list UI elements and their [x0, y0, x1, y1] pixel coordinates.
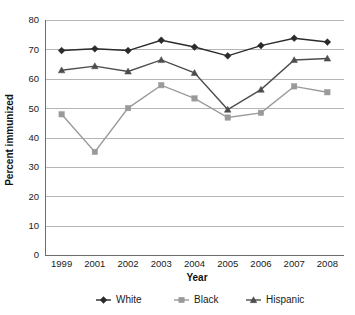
x-tick-label: 2008 [317, 258, 338, 269]
legend-label: Hispanic [266, 294, 304, 305]
legend-label: Black [194, 294, 219, 305]
series-white [58, 35, 331, 59]
y-tick-label: 80 [28, 14, 39, 25]
y-tick-label: 60 [28, 73, 39, 84]
marker-square [258, 110, 263, 115]
chart-canvas: 01020304050607080 1999200120022003200420… [0, 0, 355, 315]
marker-square [179, 297, 184, 302]
data-series [58, 35, 331, 155]
marker-diamond [58, 47, 65, 54]
x-tick-label: 2001 [84, 258, 105, 269]
legend-item-black[interactable]: Black [174, 294, 219, 305]
y-tick-label: 50 [28, 103, 39, 114]
marker-square [125, 105, 130, 110]
legend-item-white[interactable]: White [96, 294, 142, 305]
marker-diamond [158, 37, 165, 44]
marker-diamond [91, 45, 98, 52]
series-hispanic [58, 55, 330, 112]
series-line [62, 58, 328, 109]
marker-diamond [100, 297, 107, 304]
marker-square [59, 112, 64, 117]
marker-square [225, 115, 230, 120]
marker-diamond [324, 39, 331, 46]
x-tick-label: 2006 [250, 258, 271, 269]
y-axis-title: Percent immunized [4, 94, 15, 186]
y-tick-label: 40 [28, 132, 39, 143]
marker-triangle [158, 57, 165, 63]
y-tick-label: 70 [28, 44, 39, 55]
legend-label: White [116, 294, 142, 305]
marker-diamond [125, 47, 132, 54]
legend-item-hispanic[interactable]: Hispanic [246, 294, 304, 305]
marker-square [291, 84, 296, 89]
y-tick-label: 30 [28, 161, 39, 172]
x-tick-label: 2003 [151, 258, 172, 269]
chart-legend: WhiteBlackHispanic [96, 294, 304, 305]
series-black [59, 83, 330, 155]
x-axis-title: Year [186, 272, 207, 283]
series-line [62, 85, 328, 152]
x-tick-label: 2007 [284, 258, 305, 269]
marker-square [92, 149, 97, 154]
y-axis-tick-labels: 01020304050607080 [28, 14, 39, 260]
marker-square [325, 90, 330, 95]
x-tick-label: 2005 [217, 258, 238, 269]
marker-diamond [224, 52, 231, 59]
marker-square [192, 96, 197, 101]
immunization-line-chart: 01020304050607080 1999200120022003200420… [0, 0, 355, 315]
marker-diamond [258, 42, 265, 49]
x-axis-tick-labels: 199920012002200320042005200620072008 [51, 258, 338, 269]
x-tick-label: 1999 [51, 258, 72, 269]
marker-square [159, 83, 164, 88]
gridlines [45, 21, 344, 227]
x-tick-label: 2004 [184, 258, 205, 269]
axis-lines [45, 20, 344, 256]
x-tick-label: 2002 [117, 258, 138, 269]
y-tick-label: 0 [34, 249, 39, 260]
y-tick-label: 20 [28, 191, 39, 202]
marker-diamond [291, 35, 298, 42]
y-tick-label: 10 [28, 220, 39, 231]
